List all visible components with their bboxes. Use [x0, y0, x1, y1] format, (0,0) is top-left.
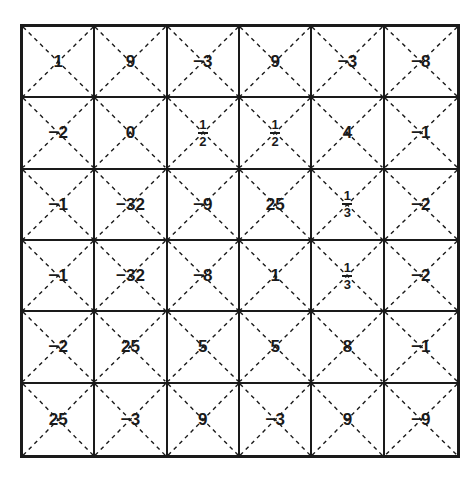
cell-value: 5 [198, 338, 207, 355]
grid-cell-r6-c6: −9 [385, 384, 457, 455]
grid-cell-r2-c5: 4 [312, 98, 384, 169]
fraction-numerator: 1 [344, 189, 351, 202]
cell-value: −32 [116, 196, 145, 213]
grid-cell-r5-c1: −2 [23, 312, 95, 383]
cell-value: −9 [193, 196, 212, 213]
cell-value: 0 [126, 124, 135, 141]
grid-cell-r3-c3: −9 [168, 170, 240, 241]
cell-fraction: 13 [342, 189, 352, 219]
cell-value: 9 [343, 411, 352, 428]
cell-value: 4 [343, 124, 352, 141]
cell-value: 9 [126, 53, 135, 70]
grid-cell-r1-c5: −3 [312, 27, 384, 98]
grid-cell-r5-c6: −1 [385, 312, 457, 383]
cell-value: −1 [48, 196, 67, 213]
grid-cell-r5-c2: 25 [95, 312, 167, 383]
cell-value: −2 [48, 338, 67, 355]
fraction-numerator: 1 [272, 118, 279, 131]
fraction-denominator: 3 [344, 206, 351, 219]
grid-cell-r6-c1: 25 [23, 384, 95, 455]
grid-cell-r6-c3: 9 [168, 384, 240, 455]
cell-value: 5 [270, 338, 279, 355]
fraction-denominator: 3 [344, 278, 351, 291]
grid-cell-r4-c1: −1 [23, 241, 95, 312]
grid-cell-r5-c4: 5 [240, 312, 312, 383]
cell-value: 25 [121, 338, 140, 355]
cell-value: 9 [270, 53, 279, 70]
grid-cell-r4-c6: −2 [385, 241, 457, 312]
grid-cell-r4-c4: 1 [240, 241, 312, 312]
grid-cell-r1-c3: −3 [168, 27, 240, 98]
cell-value: −32 [116, 267, 145, 284]
fraction-denominator: 2 [272, 135, 279, 148]
grid-cell-r4-c2: −32 [95, 241, 167, 312]
fraction-denominator: 2 [199, 135, 206, 148]
cell-value: −2 [48, 124, 67, 141]
grid-cell-r2-c3: 12 [168, 98, 240, 169]
grid-cell-r1-c6: −8 [385, 27, 457, 98]
cell-value: −2 [411, 267, 430, 284]
cell-fraction: 12 [270, 118, 280, 148]
grid-cell-r5-c5: 8 [312, 312, 384, 383]
cell-value: −3 [121, 411, 140, 428]
cell-value: 8 [343, 338, 352, 355]
grid-cell-r2-c1: −2 [23, 98, 95, 169]
cell-fraction: 12 [198, 118, 208, 148]
cell-value: 1 [270, 267, 279, 284]
grid-cell-r3-c6: −2 [385, 170, 457, 241]
grid-cell-r3-c5: 13 [312, 170, 384, 241]
grid-cell-r1-c1: 1 [23, 27, 95, 98]
number-grid: 19−39−3−8−2012124−1−1−32−92513−2−1−32−81… [20, 24, 460, 458]
grid-cell-r3-c1: −1 [23, 170, 95, 241]
grid-cell-r2-c6: −1 [385, 98, 457, 169]
grid-cell-r4-c3: −8 [168, 241, 240, 312]
grid-cell-r2-c2: 0 [95, 98, 167, 169]
grid-cell-r6-c4: −3 [240, 384, 312, 455]
cell-value: −9 [411, 411, 430, 428]
cell-value: 25 [49, 411, 68, 428]
cell-value: −1 [411, 124, 430, 141]
cell-value: −1 [48, 267, 67, 284]
cell-value: −3 [193, 53, 212, 70]
grid-cell-r1-c4: 9 [240, 27, 312, 98]
fraction-numerator: 1 [344, 261, 351, 274]
cell-fraction: 13 [342, 261, 352, 291]
grid-cell-r5-c3: 5 [168, 312, 240, 383]
grid-cell-r2-c4: 12 [240, 98, 312, 169]
grid-cell-r3-c4: 25 [240, 170, 312, 241]
grid-cell-r3-c2: −32 [95, 170, 167, 241]
cell-value: 1 [53, 53, 62, 70]
cell-value: 25 [266, 196, 285, 213]
fraction-numerator: 1 [199, 118, 206, 131]
cell-value: −3 [265, 411, 284, 428]
cell-value: −8 [193, 267, 212, 284]
grid-cell-r6-c2: −3 [95, 384, 167, 455]
cell-value: −3 [338, 53, 357, 70]
cell-value: −2 [411, 196, 430, 213]
grid-cell-r1-c2: 9 [95, 27, 167, 98]
cell-value: −8 [411, 53, 430, 70]
grid-cell-r6-c5: 9 [312, 384, 384, 455]
cell-value: −1 [411, 338, 430, 355]
cell-value: 9 [198, 411, 207, 428]
grid-cell-r4-c5: 13 [312, 241, 384, 312]
